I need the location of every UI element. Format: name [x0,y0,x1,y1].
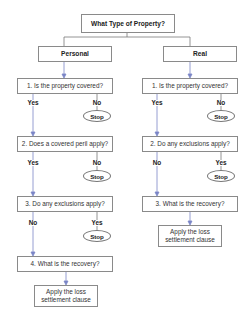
personal-q2-yes: Yes [27,159,38,166]
real-q1-stop: Stop [207,110,235,122]
stop-text: Stop [214,113,228,120]
real-q1-text: 1. Is the property covered? [152,82,228,90]
real-q1-no: No [217,99,226,106]
title-text: What Type of Property? [91,20,165,28]
personal-label: Personal [61,50,89,58]
personal-q1-no: No [93,99,102,106]
personal-q3-no: No [29,219,38,226]
title-box: What Type of Property? [81,14,175,33]
result-line-2: settlement clause [41,296,91,304]
personal-q2-stop: Stop [83,170,111,182]
result-line-1: Apply the loss [46,288,86,296]
real-label: Real [193,50,207,58]
real-result-box: Apply the loss settlement clause [158,225,222,247]
real-q1-yes: Yes [151,99,162,106]
personal-q1-yes: Yes [27,99,38,106]
real-q2-box: 2. Do any exclusions apply? [142,136,238,152]
result-line-2: settlement clause [165,236,215,244]
personal-q1-text: 1. Is the property covered? [27,82,103,90]
personal-q2-box: 2. Does a covered peril apply? [17,136,113,152]
real-q2-stop: Stop [207,170,235,182]
real-q2-text: 2. Do any exclusions apply? [150,140,230,148]
real-q3-text: 3. What is the recovery? [156,200,225,208]
personal-q3-stop: Stop [83,230,111,242]
personal-box: Personal [38,46,112,62]
stop-text: Stop [90,113,104,120]
personal-q4-text: 4. What is the recovery? [31,260,100,268]
personal-q4-box: 4. What is the recovery? [17,256,113,272]
real-q2-no: No [153,159,162,166]
stop-text: Stop [90,173,104,180]
real-q1-box: 1. Is the property covered? [142,78,238,94]
real-box: Real [163,46,237,62]
personal-q2-no: No [93,159,102,166]
personal-q3-text: 3. Do any exclusions apply? [25,200,105,208]
personal-result-box: Apply the loss settlement clause [34,285,98,307]
result-line-1: Apply the loss [170,228,210,236]
personal-q2-text: 2. Does a covered peril apply? [22,140,108,148]
personal-q1-box: 1. Is the property covered? [17,78,113,94]
stop-text: Stop [90,233,104,240]
real-q3-box: 3. What is the recovery? [142,196,238,212]
personal-q3-yes: Yes [91,219,102,226]
personal-q1-stop: Stop [83,110,111,122]
stop-text: Stop [214,173,228,180]
personal-q3-box: 3. Do any exclusions apply? [17,196,113,212]
real-q2-yes: Yes [215,159,226,166]
